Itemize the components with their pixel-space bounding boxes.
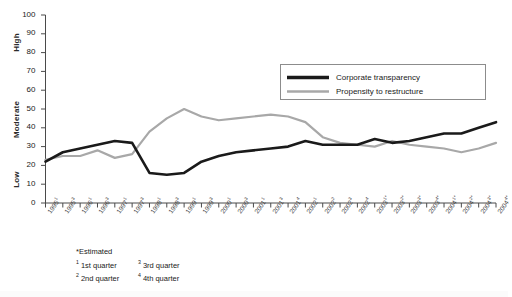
footnote-marker-3: 3	[138, 259, 141, 265]
y-tick-label: 20	[14, 160, 36, 169]
legend-label-propensity-to-restructure: Propensity to restructure	[336, 87, 423, 96]
footnote-marker-2: 2	[76, 272, 79, 278]
legend-item-corporate-transparency: Corporate transparency	[287, 71, 420, 83]
footnote-q1: 11st quarter	[76, 258, 138, 270]
legend-swatch-corporate-transparency	[287, 75, 329, 80]
y-tick-label: 0	[14, 198, 36, 207]
y-tick-label: 10	[14, 179, 36, 188]
footnote-text-q4: 4th quarter	[143, 273, 179, 282]
chart-legend: Corporate transparency Propensity to res…	[280, 64, 486, 100]
y-tick-label: 100	[14, 10, 36, 19]
footnote-marker-1: 1	[76, 259, 79, 265]
y-tick-label: 90	[14, 28, 36, 37]
footnote-q2: 22nd quarter	[76, 271, 138, 283]
footnote-q4: 44th quarter	[138, 271, 180, 283]
footnote-text-q1: 1st quarter	[81, 260, 117, 269]
y-tick-label: 40	[14, 122, 36, 131]
y-tick-label: 70	[14, 66, 36, 75]
footnote-text-q2: 2nd quarter	[81, 273, 119, 282]
y-tick-label: 30	[14, 141, 36, 150]
footnote-text-q3: 3rd quarter	[143, 260, 180, 269]
y-tick-label: 50	[14, 104, 36, 113]
y-tick-label: 80	[14, 47, 36, 56]
footnote-q3: 33rd quarter	[138, 258, 180, 270]
bottom-edge-strip	[0, 291, 508, 297]
legend-swatch-propensity-to-restructure	[287, 89, 329, 94]
legend-label-corporate-transparency: Corporate transparency	[336, 73, 420, 82]
chart-footnotes: *Estimated 11st quarter 33rd quarter 22n…	[76, 247, 180, 283]
y-tick-label: 60	[14, 85, 36, 94]
footnote-estimated: *Estimated	[76, 247, 180, 257]
legend-item-propensity-to-restructure: Propensity to restructure	[287, 85, 423, 97]
footnote-marker-4: 4	[138, 272, 141, 278]
